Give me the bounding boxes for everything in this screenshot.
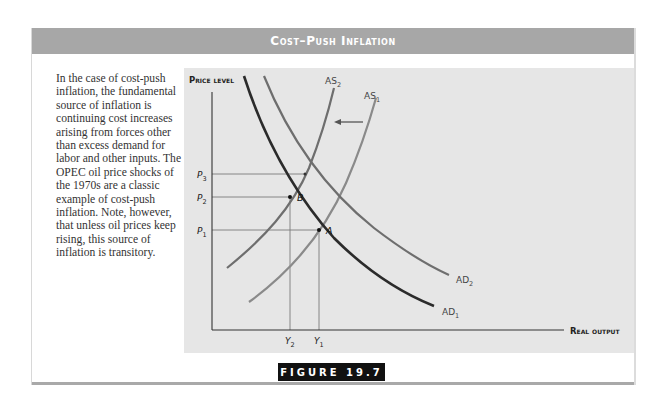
x-axis-label: Real output [570,326,620,336]
figure-number-badge: FIGURE 19.7 [278,363,385,381]
shift-arrow-icon [334,119,363,125]
ad1-label: AD1 [442,307,459,320]
p2-tick-label: P2 [197,193,207,206]
bottom-rule [32,382,634,385]
point-b-marker [288,195,292,199]
y-axis-label: Price level [189,75,234,85]
cost-push-chart: Price level [184,68,634,353]
as2-label: AS2 [325,76,341,89]
figure-frame: Cost–Push Inflation In the case of cost-… [31,28,636,385]
explanation-text: In the case of cost-push inflation, the … [56,72,184,260]
point-a-marker [317,228,321,232]
as1-label: AS1 [364,91,380,104]
point-b-label: B [297,192,304,203]
as1-curve [249,98,376,302]
as2-curve [227,88,334,268]
y2-tick-label: Y2 [285,336,295,349]
figure-header: Cost–Push Inflation [32,28,634,54]
chart-panel: Price level [184,68,634,353]
point-p3-marker [304,173,307,176]
y1-tick-label: Y1 [314,336,324,349]
p3-tick-label: P3 [197,170,207,183]
figure-title: Cost–Push Inflation [270,34,395,48]
point-a-label: A [325,225,333,236]
ad2-label: AD2 [456,275,473,288]
ad2-curve [264,76,449,275]
p1-tick-label: P1 [197,226,207,239]
ad1-curve [244,76,434,306]
